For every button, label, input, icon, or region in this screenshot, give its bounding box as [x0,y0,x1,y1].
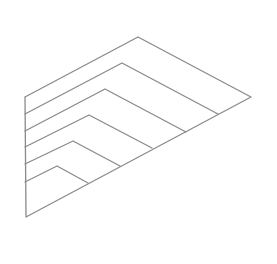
chevron-line-5 [25,166,88,183]
chevron-line-3 [25,115,152,148]
chevron-line-2 [25,89,186,132]
outer-quadrilateral-outline [25,37,251,217]
chevron-line-1 [25,63,218,114]
chevron-line-4 [25,141,120,166]
figure-canvas [0,0,277,264]
nested-chevron-diagram [0,0,277,264]
